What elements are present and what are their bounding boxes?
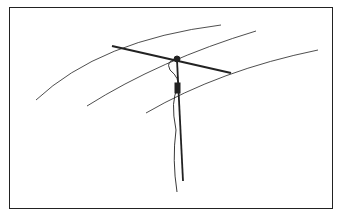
feedline <box>169 60 179 192</box>
antenna-element <box>112 46 231 73</box>
antenna <box>112 46 231 192</box>
antenna-diagram <box>0 0 344 216</box>
mast <box>177 60 183 181</box>
curve-2 <box>87 31 256 106</box>
